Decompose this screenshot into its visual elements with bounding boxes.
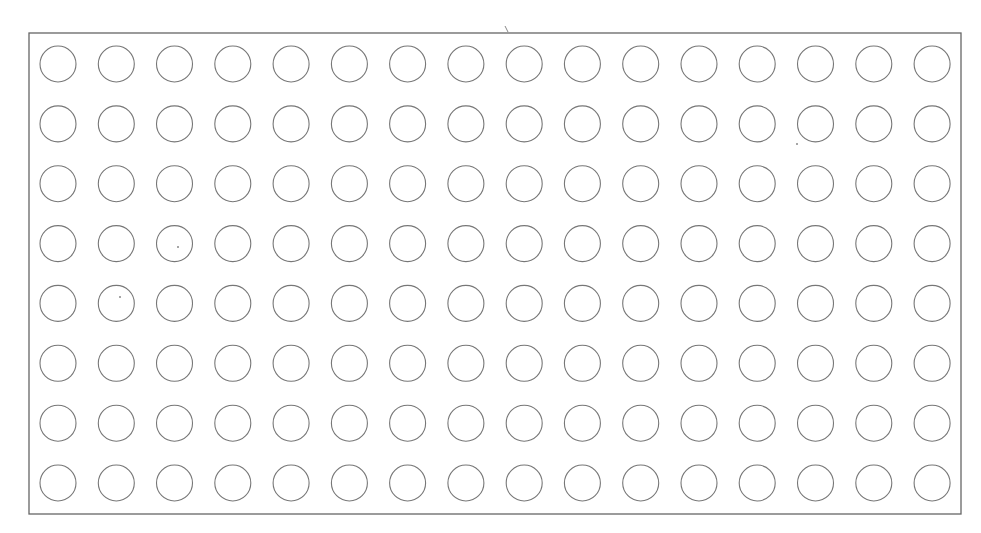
grid-circle: [564, 345, 600, 381]
grid-circle: [856, 226, 892, 262]
grid-circle: [331, 106, 367, 142]
grid-circle: [681, 106, 717, 142]
grid-circle: [798, 46, 834, 82]
grid-circle: [739, 285, 775, 321]
grid-circle: [448, 465, 484, 501]
grid-circle: [98, 226, 134, 262]
grid-circle: [40, 166, 76, 202]
grid-circle: [739, 345, 775, 381]
grid-circle: [448, 405, 484, 441]
grid-circle: [506, 285, 542, 321]
grid-circle: [856, 345, 892, 381]
grid-circle: [914, 405, 950, 441]
grid-circle: [157, 465, 193, 501]
grid-circle: [157, 46, 193, 82]
grid-circle: [215, 226, 251, 262]
grid-frame: [29, 33, 961, 514]
grid-circle: [681, 465, 717, 501]
grid-circle: [40, 465, 76, 501]
grid-circle: [215, 285, 251, 321]
grid-circle: [390, 226, 426, 262]
grid-circle: [157, 106, 193, 142]
grid-circle: [623, 345, 659, 381]
grid-circle: [215, 405, 251, 441]
grid-circle: [331, 465, 367, 501]
grid-circle: [914, 46, 950, 82]
stray-dot: [119, 296, 121, 298]
grid-circle: [623, 46, 659, 82]
grid-circle: [157, 345, 193, 381]
grid-circle: [273, 285, 309, 321]
grid-circle: [448, 166, 484, 202]
grid-circle: [98, 465, 134, 501]
grid-circle: [681, 285, 717, 321]
grid-circle: [856, 46, 892, 82]
grid-circle: [564, 405, 600, 441]
stray-dot: [796, 143, 798, 145]
grid-circle: [40, 106, 76, 142]
grid-circle: [448, 285, 484, 321]
grid-circle: [564, 465, 600, 501]
grid-circle: [798, 226, 834, 262]
grid-circle: [681, 166, 717, 202]
grid-circle: [273, 345, 309, 381]
grid-circle: [273, 46, 309, 82]
grid-circle: [390, 285, 426, 321]
grid-circle: [273, 405, 309, 441]
grid-circle: [623, 106, 659, 142]
tick-mark: [505, 26, 508, 32]
grid-circle: [623, 166, 659, 202]
grid-circle: [448, 345, 484, 381]
grid-circle: [856, 166, 892, 202]
grid-circle: [739, 106, 775, 142]
grid-circle: [390, 106, 426, 142]
grid-circle: [681, 46, 717, 82]
grid-circle: [331, 226, 367, 262]
grid-circle: [390, 405, 426, 441]
grid-circle: [739, 465, 775, 501]
grid-circle: [681, 226, 717, 262]
grid-circle: [914, 106, 950, 142]
grid-circle: [273, 226, 309, 262]
grid-circle: [448, 46, 484, 82]
grid-circle: [273, 106, 309, 142]
circle-grid-diagram: [0, 0, 981, 533]
grid-circle: [40, 405, 76, 441]
grid-circle: [215, 465, 251, 501]
grid-circle: [564, 285, 600, 321]
grid-circle: [390, 166, 426, 202]
grid-circle: [623, 226, 659, 262]
grid-circle: [914, 166, 950, 202]
grid-circle: [448, 106, 484, 142]
grid-circle: [157, 405, 193, 441]
grid-circle: [40, 46, 76, 82]
grid-circle: [40, 285, 76, 321]
grid-circle: [798, 345, 834, 381]
grid-circle: [914, 285, 950, 321]
grid-circle: [623, 405, 659, 441]
grid-circle: [390, 345, 426, 381]
grid-circle: [798, 106, 834, 142]
grid-circle: [331, 405, 367, 441]
grid-circle: [506, 46, 542, 82]
grid-circle: [564, 166, 600, 202]
grid-circle: [739, 166, 775, 202]
grid-circle: [390, 46, 426, 82]
grid-circle: [564, 46, 600, 82]
grid-circle: [798, 166, 834, 202]
grid-circle: [914, 465, 950, 501]
grid-circle: [331, 345, 367, 381]
grid-circle: [798, 465, 834, 501]
circle-grid: [40, 46, 950, 501]
grid-circle: [914, 226, 950, 262]
grid-circle: [98, 106, 134, 142]
grid-circle: [98, 285, 134, 321]
grid-circle: [98, 166, 134, 202]
grid-circle: [681, 405, 717, 441]
grid-circle: [506, 226, 542, 262]
grid-circle: [681, 345, 717, 381]
grid-circle: [739, 226, 775, 262]
grid-circle: [798, 405, 834, 441]
grid-circle: [506, 166, 542, 202]
grid-circle: [215, 345, 251, 381]
